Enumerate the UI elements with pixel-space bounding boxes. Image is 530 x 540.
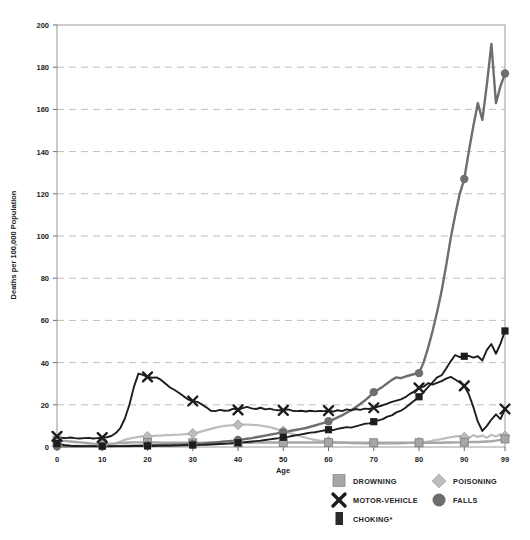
plot-border — [57, 25, 505, 447]
legend-label: POISONING — [453, 477, 497, 486]
marker-choking- — [325, 426, 332, 433]
x-axis-ticks: 010203040506070809099 — [55, 447, 509, 464]
marker-drowning — [415, 439, 423, 447]
marker-drowning — [370, 439, 378, 447]
x-tick-label: 20 — [143, 455, 151, 464]
y-tick-label: 60 — [41, 316, 49, 325]
marker-falls — [324, 417, 332, 425]
legend-item-motor-vehicle[interactable]: MOTOR-VEHICLE — [333, 494, 418, 506]
x-tick-label: 50 — [279, 455, 287, 464]
series-line-falls — [57, 44, 505, 446]
marker-drowning — [325, 439, 333, 447]
series-markers-layer — [52, 69, 510, 450]
legend-label: FALLS — [453, 496, 478, 505]
marker-choking- — [53, 440, 60, 447]
choking-square-icon — [336, 512, 344, 525]
marker-drowning — [460, 438, 468, 446]
y-axis-title: Deaths per 100,000 Population — [9, 190, 18, 299]
y-tick-label: 160 — [36, 105, 49, 114]
marker-falls — [370, 388, 378, 396]
falls-circle-icon — [433, 494, 446, 507]
x-tick-label: 99 — [501, 455, 509, 464]
x-tick-label: 70 — [370, 455, 378, 464]
data-series-layer — [57, 44, 505, 446]
legend-label: MOTOR-VEHICLE — [353, 496, 418, 505]
marker-choking- — [234, 439, 241, 446]
legend-label: DROWNING — [353, 477, 397, 486]
chart-legend: DROWNINGPOISONINGMOTOR-VEHICLEFALLSCHOKI… — [333, 474, 497, 525]
marker-falls — [460, 175, 468, 183]
y-tick-label: 80 — [41, 274, 49, 283]
x-tick-label: 0 — [55, 455, 59, 464]
y-tick-label: 200 — [36, 21, 49, 30]
y-tick-label: 180 — [36, 63, 49, 72]
x-tick-label: 60 — [324, 455, 332, 464]
drowning-square-icon — [333, 475, 345, 487]
plot-frame — [57, 25, 505, 447]
motor-vehicle-x-icon — [333, 494, 345, 506]
y-tick-label: 140 — [36, 148, 49, 157]
marker-choking- — [189, 442, 196, 449]
marker-falls — [415, 369, 423, 377]
marker-choking- — [99, 443, 106, 450]
legend-item-falls[interactable]: FALLS — [433, 494, 478, 507]
y-axis-ticks: 020406080100120140160180200 — [36, 21, 57, 452]
y-tick-label: 100 — [36, 232, 49, 241]
y-tick-label: 40 — [41, 359, 49, 368]
x-axis-title: Age — [276, 466, 290, 475]
y-tick-label: 120 — [36, 190, 49, 199]
y-tick-label: 20 — [41, 401, 49, 410]
legend-item-choking-[interactable]: CHOKING* — [336, 512, 393, 525]
y-tick-label: 0 — [45, 443, 49, 452]
marker-choking- — [501, 327, 508, 334]
x-tick-label: 80 — [415, 455, 423, 464]
deaths-by-age-line-chart: 020406080100120140160180200 010203040506… — [0, 0, 530, 540]
legend-item-poisoning[interactable]: POISONING — [432, 474, 497, 488]
x-tick-label: 90 — [460, 455, 468, 464]
marker-drowning — [501, 435, 509, 443]
marker-falls — [501, 69, 509, 77]
marker-choking- — [415, 393, 422, 400]
marker-choking- — [370, 418, 377, 425]
x-tick-label: 10 — [98, 455, 106, 464]
plot-area-wrapper: 020406080100120140160180200 010203040506… — [0, 0, 530, 540]
marker-poisoning — [188, 428, 198, 438]
marker-choking- — [144, 442, 151, 449]
x-tick-label: 30 — [189, 455, 197, 464]
poisoning-diamond-icon — [432, 474, 446, 488]
marker-motor-vehicle — [460, 381, 469, 390]
marker-choking- — [280, 434, 287, 441]
marker-poisoning — [233, 420, 243, 430]
marker-choking- — [461, 353, 468, 360]
legend-label: CHOKING* — [353, 515, 393, 524]
chart-container: 020406080100120140160180200 010203040506… — [0, 0, 530, 540]
gridlines — [57, 67, 505, 405]
x-tick-label: 40 — [234, 455, 242, 464]
legend-item-drowning[interactable]: DROWNING — [333, 475, 397, 487]
